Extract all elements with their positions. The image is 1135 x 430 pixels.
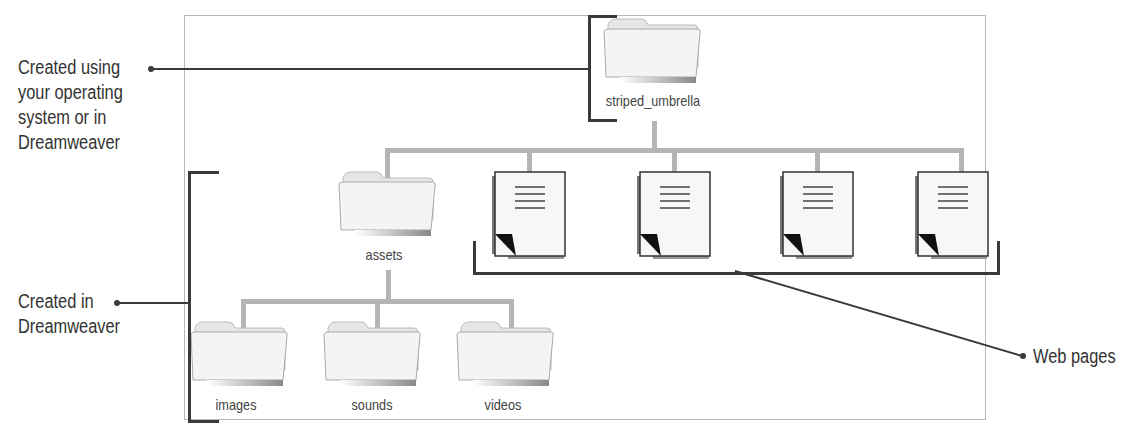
callout-pages-text: Web pages (1033, 344, 1116, 369)
callout-pages-leader (0, 0, 1135, 430)
